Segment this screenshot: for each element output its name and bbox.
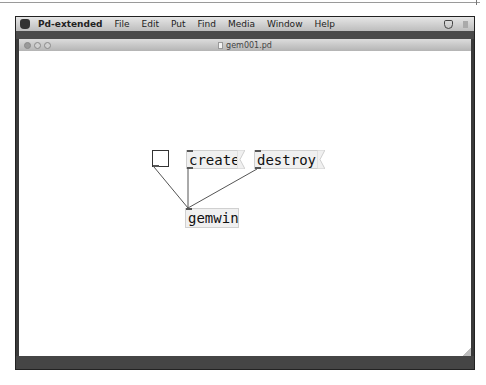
screen-top-divider (0, 2, 480, 3)
security-shield-icon[interactable] (444, 20, 453, 29)
object-inlet[interactable] (186, 208, 192, 210)
window-titlebar[interactable]: gem001.pd (19, 39, 471, 51)
menu-find[interactable]: Find (198, 19, 216, 29)
menu-edit[interactable]: Edit (142, 19, 159, 29)
document-icon (218, 42, 223, 49)
message-flag-icon (237, 150, 245, 169)
resize-grip-icon[interactable] (463, 348, 471, 356)
screen-top-mark (476, 0, 477, 5)
message-inlet[interactable] (255, 150, 261, 152)
window-bottom-band (16, 356, 474, 369)
app-frame: Pd-extended File Edit Put Find Media Win… (15, 16, 475, 370)
apple-menu-icon[interactable] (20, 19, 30, 29)
message-create[interactable]: create (186, 150, 238, 169)
toggle-box[interactable] (152, 150, 169, 167)
menu-window[interactable]: Window (267, 19, 303, 29)
message-outlet[interactable] (255, 167, 261, 169)
menu-help[interactable]: Help (315, 19, 336, 29)
menu-bar: Pd-extended File Edit Put Find Media Win… (16, 17, 474, 31)
message-outlet[interactable] (187, 167, 193, 169)
menu-underbar (16, 31, 474, 39)
status-menu-icon[interactable] (463, 21, 468, 28)
toggle-outlet[interactable] (153, 165, 159, 167)
object-gemwin-label: gemwin (188, 210, 239, 226)
message-destroy[interactable]: destroy (254, 150, 318, 169)
menu-put[interactable]: Put (171, 19, 186, 29)
object-gemwin[interactable]: gemwin (185, 208, 239, 228)
message-inlet[interactable] (187, 150, 193, 152)
message-destroy-label: destroy (257, 152, 316, 168)
patch-window: gem001.pd (19, 39, 471, 356)
menu-app-name[interactable]: Pd-extended (38, 19, 103, 29)
message-flag-icon (317, 150, 325, 169)
patch-canvas[interactable] (19, 51, 471, 356)
window-title: gem001.pd (226, 41, 272, 50)
menu-media[interactable]: Media (228, 19, 255, 29)
menu-file[interactable]: File (115, 19, 130, 29)
message-create-label: create (189, 152, 240, 168)
